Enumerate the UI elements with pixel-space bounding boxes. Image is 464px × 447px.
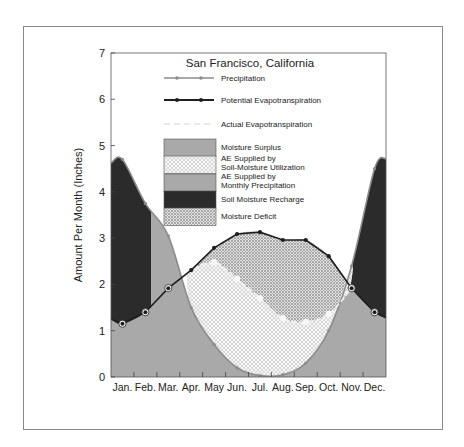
precipitation-point bbox=[304, 362, 307, 365]
ae-point bbox=[326, 311, 332, 317]
legend-area-label: Soil Moisture Recharge bbox=[221, 195, 305, 204]
legend-area-label: Moisture Surplus bbox=[221, 143, 281, 152]
x-tick-label: Sep. bbox=[295, 381, 317, 393]
legend-line-label: Potential Evapotranspiration bbox=[221, 96, 321, 105]
precipitation-point bbox=[121, 158, 124, 161]
ae-point bbox=[257, 295, 263, 301]
y-tick-label: 3 bbox=[99, 232, 105, 244]
ae-point bbox=[280, 315, 286, 321]
x-tick-label: Aug. bbox=[272, 381, 294, 393]
y-tick-label: 0 bbox=[99, 371, 105, 383]
legend-area-label: AE Supplied by bbox=[221, 172, 276, 181]
pe-point bbox=[350, 286, 354, 290]
pe-point bbox=[235, 232, 239, 236]
y-axis-title: Amount Per Month (Inches) bbox=[72, 148, 84, 283]
x-tick-label: Jul. bbox=[252, 381, 268, 393]
legend-area-label: AE Supplied by bbox=[221, 154, 276, 163]
y-tick-label: 1 bbox=[99, 325, 105, 337]
pe-point bbox=[258, 230, 262, 234]
pe-point bbox=[212, 246, 216, 250]
x-tick-label: Oct. bbox=[319, 381, 338, 393]
pe-point bbox=[189, 268, 193, 272]
ae-point bbox=[234, 276, 240, 282]
pe-point bbox=[166, 286, 170, 290]
precipitation-point bbox=[190, 306, 193, 309]
precipitation-point bbox=[213, 343, 216, 346]
precipitation-point bbox=[373, 167, 376, 170]
x-tick-label: Apr. bbox=[182, 381, 201, 393]
pe-point bbox=[120, 322, 124, 326]
y-tick-label: 5 bbox=[99, 140, 105, 152]
precipitation-point bbox=[144, 202, 147, 205]
legend-swatch bbox=[164, 174, 216, 192]
legend-area-label: Moisture Deficit bbox=[221, 212, 277, 221]
x-tick-label: Mar. bbox=[158, 381, 178, 393]
precipitation-point bbox=[350, 264, 353, 267]
x-tick-label: Nov. bbox=[341, 381, 362, 393]
legend-swatch bbox=[164, 139, 216, 157]
y-tick-label: 4 bbox=[99, 186, 105, 198]
pe-point bbox=[143, 310, 147, 314]
pe-point bbox=[304, 238, 308, 242]
legend-area-label: Soil-Moisture Utilization bbox=[221, 163, 305, 172]
legend-swatch bbox=[164, 208, 216, 226]
legend-swatch bbox=[164, 156, 216, 174]
precipitation-point bbox=[281, 373, 284, 376]
ae-point bbox=[211, 259, 217, 265]
y-tick-label: 6 bbox=[99, 93, 105, 105]
pe-point bbox=[373, 310, 377, 314]
precipitation-point bbox=[167, 234, 170, 237]
ae-point bbox=[303, 319, 309, 325]
x-tick-label: Dec. bbox=[364, 381, 386, 393]
legend-line-label: Actual Evapotranspiration bbox=[221, 120, 312, 129]
legend-area-label: Monthly Precipitation bbox=[221, 181, 295, 190]
legend: San Francisco, CaliforniaPrecipitationPo… bbox=[162, 57, 334, 226]
legend-swatch bbox=[164, 191, 216, 209]
x-tick-label: Jan. bbox=[113, 381, 133, 393]
x-tick-label: May bbox=[204, 381, 225, 393]
precipitation-point bbox=[235, 366, 238, 369]
x-tick-label: Feb. bbox=[135, 381, 156, 393]
water-budget-chart: 01234567Jan.Feb.Mar.Apr.MayJun.Jul.Aug.S… bbox=[0, 0, 464, 447]
pe-point bbox=[327, 254, 331, 258]
legend-line-label: Precipitation bbox=[221, 74, 265, 83]
precipitation-point bbox=[327, 329, 330, 332]
pe-point bbox=[281, 238, 285, 242]
plot-areas bbox=[111, 157, 386, 377]
y-tick-label: 7 bbox=[99, 47, 105, 59]
x-tick-label: Jun. bbox=[227, 381, 247, 393]
y-tick-label: 2 bbox=[99, 278, 105, 290]
chart-title: San Francisco, California bbox=[186, 57, 315, 69]
